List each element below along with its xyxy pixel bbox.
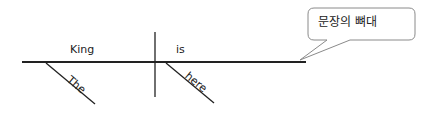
subject-word: King bbox=[70, 44, 94, 55]
sentence-diagram: King is The here 문장의 뼈대 bbox=[0, 0, 431, 116]
verb-word: is bbox=[176, 44, 185, 55]
callout-label: 문장의 뼈대 bbox=[318, 16, 377, 28]
